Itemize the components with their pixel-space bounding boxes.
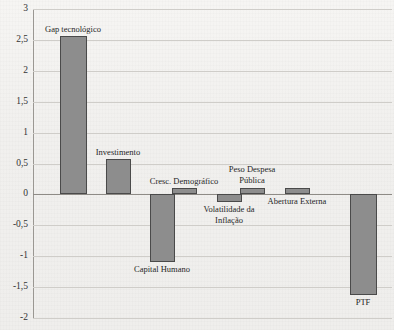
zero-line [33,194,392,195]
y-axis-tick: 0 [0,189,28,198]
bar-label-7: Abertura Externa [259,196,336,206]
y-axis-tick: 0,5 [0,159,28,168]
bar-label-5: Volatilidade da Inflação [199,204,259,226]
bar-chart: 32,521,510,50-0,5-1-1,5-2 Gap tecnológic… [0,0,394,330]
bar-6 [240,188,265,194]
y-axis-tick: -1,5 [0,282,28,291]
bar-label-2: Investimento [89,147,147,157]
gridline [33,287,392,288]
y-axis-tick: -0,5 [0,220,28,229]
y-axis-tick: 1,5 [0,97,28,106]
gridline [33,9,392,10]
bar-label-8: PTF [341,297,385,307]
y-axis-tick: 1 [0,128,28,137]
y-axis-tick: 3 [0,4,28,13]
gridline [33,102,392,103]
bar-label-1: Gap tecnológico [37,24,109,34]
gridline [33,71,392,72]
bar-label-3: Capital Humano [128,264,195,274]
bar-2 [106,159,131,194]
y-axis-tick: 2 [0,66,28,75]
bar-7 [285,188,310,194]
bar-1 [60,36,87,195]
gridline [33,164,392,165]
y-axis-tick: -1 [0,251,28,260]
plot-area: Gap tecnológicoInvestimentoCapital Human… [33,9,392,318]
gridline [33,133,392,134]
gridline [33,318,392,319]
bar-3 [150,194,175,262]
bar-label-4: Cresc. Demográfico [141,176,227,186]
y-axis-tick: -2 [0,313,28,322]
bar-label-6: Peso Despesa Pública [222,164,282,186]
bar-8 [350,194,377,295]
gridline [33,40,392,41]
y-axis-tick: 2,5 [0,35,28,44]
bar-5 [217,194,242,201]
bar-4 [172,188,197,194]
gridline [33,256,392,257]
y-axis-tick-labels: 32,521,510,50-0,5-1-1,5-2 [0,9,30,318]
